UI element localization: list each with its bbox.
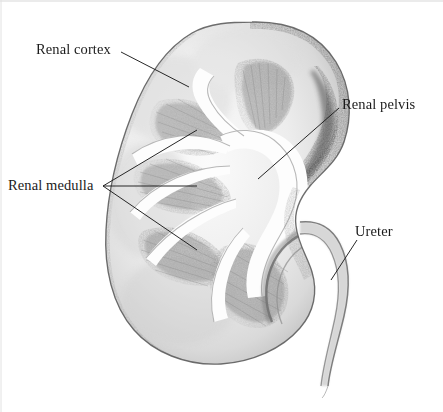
kidney-diagram-page: Renal cortex Renal pelvis Renal medulla … [0,0,443,412]
label-renal-cortex: Renal cortex [36,41,111,58]
label-ureter: Ureter [355,223,393,240]
kidney-body [102,22,351,373]
label-renal-medulla: Renal medulla [8,177,93,194]
label-renal-pelvis: Renal pelvis [342,96,415,113]
kidney-figure [0,0,443,412]
